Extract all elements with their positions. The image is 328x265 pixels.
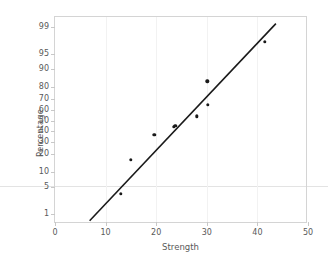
y-tick-label: 5: [44, 183, 49, 191]
x-tick-mark: [257, 222, 258, 226]
y-tick-label: 1: [44, 210, 49, 218]
y-axis-label: Percentage: [36, 109, 45, 157]
y-tick-label: 95: [39, 50, 49, 58]
x-tick-mark: [308, 222, 309, 226]
x-tick-mark: [156, 222, 157, 226]
x-tick-label: 10: [101, 229, 111, 237]
x-tick-label: 40: [252, 229, 262, 237]
y-tick-label: 99: [39, 23, 49, 31]
plot-area: 151020304050607080909599 01020304050: [54, 16, 307, 223]
x-axis-label: Strength: [54, 243, 307, 252]
x-tick-mark: [55, 222, 56, 226]
y-tick-label: 70: [39, 95, 49, 103]
x-tick-label: 20: [151, 229, 161, 237]
normal-probability-plot: 151020304050607080909599 01020304050 Per…: [0, 0, 328, 265]
fit-line: [55, 17, 306, 222]
x-tick-label: 50: [303, 229, 313, 237]
y-tick-label: 80: [39, 83, 49, 91]
x-tick-label: 30: [202, 229, 212, 237]
y-tick-label: 90: [39, 65, 49, 73]
x-tick-label: 0: [52, 229, 57, 237]
fit-line-segment: [90, 24, 276, 221]
x-tick-mark: [106, 222, 107, 226]
y-tick-label: 10: [39, 168, 49, 176]
x-tick-mark: [207, 222, 208, 226]
